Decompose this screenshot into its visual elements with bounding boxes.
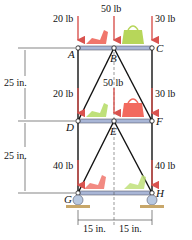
bag-icon bbox=[122, 30, 144, 44]
load-b: 50 lb bbox=[101, 3, 121, 14]
truss-diagram: 25 in. 25 in. 20 lb 50 lb 30 lb 20 lb 50… bbox=[0, 0, 192, 240]
member-eg bbox=[78, 121, 114, 193]
load-a: 20 lb bbox=[53, 13, 73, 24]
node-g: G bbox=[64, 193, 72, 205]
lower-height-label: 25 in. bbox=[4, 150, 27, 161]
bag-handle-icon bbox=[128, 99, 138, 103]
shoe-icon bbox=[86, 30, 108, 44]
load-c: 30 lb bbox=[155, 13, 175, 24]
right-span-label: 15 in. bbox=[119, 223, 142, 234]
node-f: F bbox=[155, 115, 163, 127]
member-eh bbox=[114, 121, 152, 193]
node-c: C bbox=[156, 42, 164, 54]
upper-height-label: 25 in. bbox=[4, 77, 27, 88]
load-f: 30 lb bbox=[155, 88, 175, 99]
load-g: 40 lb bbox=[53, 160, 73, 171]
node-b: B bbox=[110, 52, 117, 64]
roller-supports bbox=[66, 195, 164, 208]
shoe-icon bbox=[86, 103, 108, 117]
load-d: 20 lb bbox=[53, 88, 73, 99]
load-e: 50 lb bbox=[103, 77, 123, 88]
shoe-icon bbox=[124, 175, 146, 189]
bag-handle-icon bbox=[128, 26, 138, 30]
load-h: 40 lb bbox=[155, 160, 175, 171]
beam-gh bbox=[78, 191, 152, 195]
shoe-icon bbox=[84, 175, 106, 189]
bag-icon bbox=[122, 103, 144, 117]
node-d: D bbox=[65, 121, 74, 133]
left-span-label: 15 in. bbox=[83, 223, 106, 234]
node-a: A bbox=[67, 48, 75, 60]
node-e: E bbox=[109, 125, 117, 137]
node-h: H bbox=[155, 187, 165, 199]
